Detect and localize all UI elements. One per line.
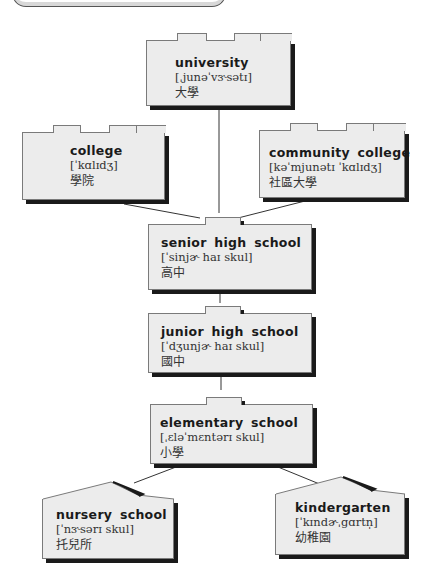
box-tab xyxy=(260,33,292,41)
node-chinese-label: 大學 xyxy=(175,85,290,101)
node-senior-high-school: senior high school [ˈsinjɚ haɪ skul] 高中 xyxy=(148,224,312,290)
node-chinese-label: 國中 xyxy=(161,354,311,370)
node-chinese-label: 高中 xyxy=(161,265,311,281)
node-english-label: elementary school xyxy=(160,415,312,430)
node-university: university [ˌjunəˈvɝsətɪ] 大學 xyxy=(146,40,291,106)
node-pronunciation: [kəˈmjunətɪ ˈkɑlɪdʒ] xyxy=(269,160,404,175)
node-chinese-label: 學院 xyxy=(70,173,164,189)
node-nursery-school: nursery school [ˈnɝsərɪ skul] 托兒所 xyxy=(42,499,174,559)
box-tab xyxy=(290,123,318,131)
node-junior-high-school: junior high school [ˈdʒunjɚ haɪ skul] 國中 xyxy=(148,313,312,373)
node-chinese-label: 托兒所 xyxy=(56,537,173,553)
roof-shape xyxy=(276,476,416,496)
box-tab xyxy=(109,125,137,133)
box-tab xyxy=(206,397,242,405)
node-english-label: college xyxy=(70,143,164,158)
tab-shadow xyxy=(241,310,244,314)
node-pronunciation: [ˌjunəˈvɝsətɪ] xyxy=(175,70,290,85)
node-pronunciation: [ˈkɪndɚˌgɑrtn̩] xyxy=(295,515,404,530)
node-community-college: community college [kəˈmjunətɪ ˈkɑlɪdʒ] 社… xyxy=(259,130,405,198)
node-chinese-label: 小學 xyxy=(160,445,312,461)
node-english-label: kindergarten xyxy=(295,500,404,515)
node-college: college [ˈkɑlɪdʒ] 學院 xyxy=(22,132,165,200)
node-elementary-school: elementary school [ˌɛləˈmɛntərɪ skul] 小學 xyxy=(150,404,313,464)
node-english-label: senior high school xyxy=(161,235,311,250)
node-english-label: university xyxy=(175,55,290,70)
box-tab xyxy=(136,125,166,133)
node-pronunciation: [ˈsinjɚ haɪ skul] xyxy=(161,250,311,265)
box-tab xyxy=(205,217,241,225)
box-tab xyxy=(205,306,241,314)
box-tab xyxy=(177,33,207,41)
connector-senior-college xyxy=(124,204,200,218)
tab-shadow xyxy=(241,221,244,225)
node-chinese-label: 幼稚園 xyxy=(295,530,404,546)
node-kindergarten: kindergarten [ˈkɪndɚˌgɑrtn̩] 幼稚園 xyxy=(275,494,405,555)
node-english-label: junior high school xyxy=(161,324,311,339)
connector-senior-community xyxy=(238,200,309,218)
node-pronunciation: [ˌɛləˈmɛntərɪ skul] xyxy=(160,430,312,445)
node-chinese-label: 社區大學 xyxy=(269,175,404,191)
roof-shape xyxy=(43,481,183,501)
tab-shadow xyxy=(242,401,245,405)
node-pronunciation: [ˈdʒunjɚ haɪ skul] xyxy=(161,339,311,354)
node-pronunciation: [ˈkɑlɪdʒ] xyxy=(70,158,164,173)
box-tab xyxy=(346,123,374,131)
node-english-label: nursery school xyxy=(56,507,173,522)
box-tab xyxy=(373,123,406,131)
node-english-label: community college xyxy=(269,145,404,160)
node-pronunciation: [ˈnɝsərɪ skul] xyxy=(56,522,173,537)
box-tab xyxy=(53,125,81,133)
